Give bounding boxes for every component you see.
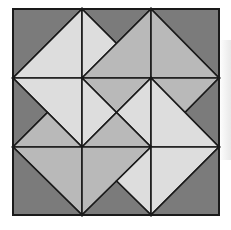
- quilt-pattern-figure: [0, 0, 231, 230]
- triangle-pieces: [13, 9, 219, 215]
